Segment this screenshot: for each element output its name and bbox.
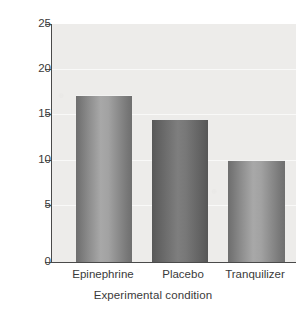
x-axis-line (51, 262, 296, 263)
y-tick-label-25: 25 (27, 18, 51, 30)
x-tick-label-tranquilizer: Tranquilizer (200, 268, 306, 280)
gridline-20 (52, 69, 296, 70)
y-tick-label-10: 10 (27, 154, 51, 166)
bar-tranquilizer (228, 160, 285, 262)
bar-epinephrine (76, 95, 132, 262)
y-tick-label-0: 0 (27, 256, 51, 268)
y-tick-label-15: 15 (27, 108, 51, 120)
bar-chart-figure: 25 20 15 10 5 0 Mean amusement score Epi… (0, 0, 306, 319)
bar-placebo (152, 119, 208, 262)
plot-area (52, 24, 296, 262)
y-axis-line (51, 24, 52, 263)
y-tick-label-20: 20 (27, 63, 51, 75)
x-axis-title: Experimental condition (0, 289, 306, 301)
y-tick-label-5: 5 (27, 199, 51, 211)
